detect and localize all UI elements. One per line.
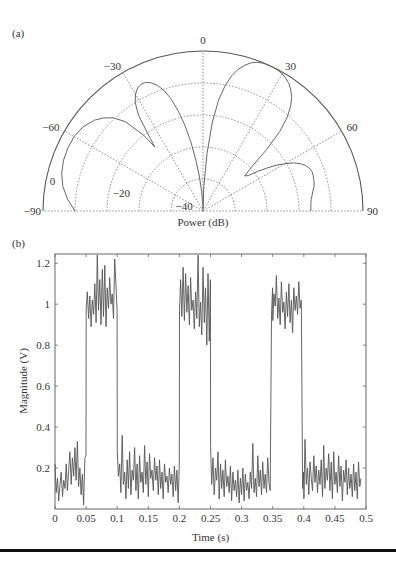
polar-grid-spoke <box>203 72 283 211</box>
x-tick-label: 0.15 <box>139 512 159 524</box>
polar-angle-label: −90 <box>24 205 42 217</box>
x-tick-label: 0.25 <box>201 512 221 524</box>
x-tick-label: 0.4 <box>297 512 311 524</box>
polar-xlabel: Power (dB) <box>177 216 228 229</box>
panel-a-label: (a) <box>12 27 25 40</box>
y-tick-label: 0.4 <box>36 421 50 433</box>
y-axis-label: Magnitude (V) <box>17 348 30 414</box>
y-tick-label: 0.6 <box>36 380 50 392</box>
polar-grid <box>43 51 363 211</box>
panel-b-label: (b) <box>12 237 25 250</box>
polar-beam-pattern-line <box>62 62 315 211</box>
polar-angle-label: 30 <box>285 60 297 72</box>
polar-grid-spoke <box>203 131 342 211</box>
polar-radial-label: −20 <box>113 187 131 199</box>
time-series-panel: (b) 00.050.10.150.20.250.30.350.40.450.5… <box>12 237 373 544</box>
polar-radial-tick-labels: 0−20−40 <box>50 175 193 211</box>
polar-angle-label: −60 <box>42 121 60 133</box>
x-tick-label: 0.1 <box>110 512 124 524</box>
polar-plot-panel: (a) −90−60−300306090 0−20−40 Power (dB) <box>12 27 379 229</box>
x-tick-label: 0.3 <box>235 512 249 524</box>
x-tick-label: 0.05 <box>76 512 96 524</box>
y-tick-label: 0.2 <box>36 462 50 474</box>
signal-line <box>55 255 361 505</box>
polar-angle-label: 90 <box>367 205 379 217</box>
polar-angle-label: −30 <box>104 60 122 72</box>
bottom-rule <box>0 549 396 552</box>
polar-angle-label: 0 <box>200 34 206 46</box>
x-tick-label: 0.35 <box>263 512 283 524</box>
x-axis-label: Time (s) <box>192 531 230 544</box>
x-tick-label: 0.5 <box>359 512 373 524</box>
x-tick-label: 0.45 <box>325 512 345 524</box>
y-tick-label: 0.8 <box>36 339 50 351</box>
polar-radial-label: 0 <box>50 175 56 187</box>
figure: (a) −90−60−300306090 0−20−40 Power (dB) … <box>0 0 396 561</box>
x-tick-label: 0.2 <box>173 512 187 524</box>
y-tick-label: 1.2 <box>36 257 50 269</box>
polar-radial-label: −40 <box>176 200 194 212</box>
polar-angle-label: 60 <box>346 121 358 133</box>
x-tick-label: 0 <box>52 512 58 524</box>
y-tick-label: 1 <box>45 298 51 310</box>
